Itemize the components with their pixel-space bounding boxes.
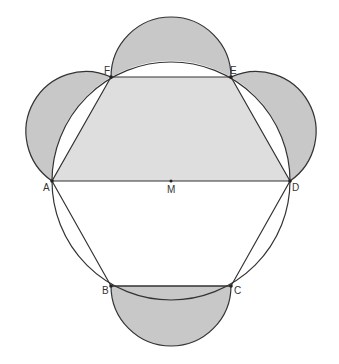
label-d: D — [292, 182, 299, 193]
geometry-diagram: A B C D E F M — [0, 0, 339, 364]
label-e: E — [230, 65, 237, 76]
point-b — [109, 284, 113, 288]
semicircle-bc — [111, 286, 231, 346]
label-a: A — [43, 182, 50, 193]
point-a — [50, 179, 54, 183]
label-f: F — [104, 65, 110, 76]
label-b: B — [102, 285, 109, 296]
label-c: C — [234, 285, 241, 296]
label-m: M — [167, 184, 175, 195]
point-m — [170, 180, 173, 183]
point-c — [229, 284, 233, 288]
